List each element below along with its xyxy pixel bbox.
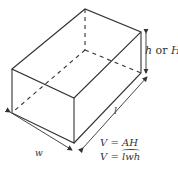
height-var-H: H bbox=[171, 44, 178, 57]
formula-rhs: lwh bbox=[122, 151, 140, 162]
formula-eq: = bbox=[107, 137, 122, 148]
height-label: h or H bbox=[145, 44, 178, 57]
formula-rhs: AH bbox=[122, 137, 138, 148]
width-label: w bbox=[35, 148, 43, 158]
formula-volume-lwh: V = lwh bbox=[100, 151, 140, 162]
height-conj: or bbox=[152, 44, 171, 57]
prism-diagram bbox=[0, 0, 178, 170]
top-face bbox=[12, 9, 141, 98]
length-label: l bbox=[114, 106, 117, 116]
formula-eq: = bbox=[107, 151, 122, 162]
formula-volume-area: V = AH bbox=[100, 137, 138, 148]
width-arrow bbox=[10, 112, 72, 150]
